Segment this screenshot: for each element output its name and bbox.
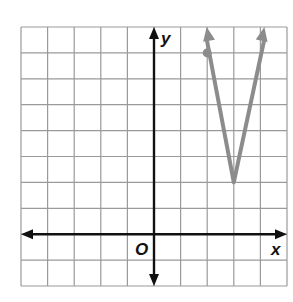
y-axis-label: y — [160, 29, 172, 48]
right-branch-arrow-icon — [256, 27, 268, 42]
y-axis-down-arrow-icon — [149, 274, 159, 286]
origin-label: O — [135, 240, 148, 259]
x-axis-right-arrow-icon — [275, 229, 287, 239]
x-axis-left-arrow-icon — [21, 229, 33, 239]
x-axis-label: x — [270, 240, 282, 259]
left-branch-arrow-icon — [203, 27, 215, 42]
marked-point-dot — [203, 48, 212, 57]
y-axis-up-arrow-icon — [149, 27, 159, 39]
coordinate-graph: y x O — [0, 0, 293, 302]
